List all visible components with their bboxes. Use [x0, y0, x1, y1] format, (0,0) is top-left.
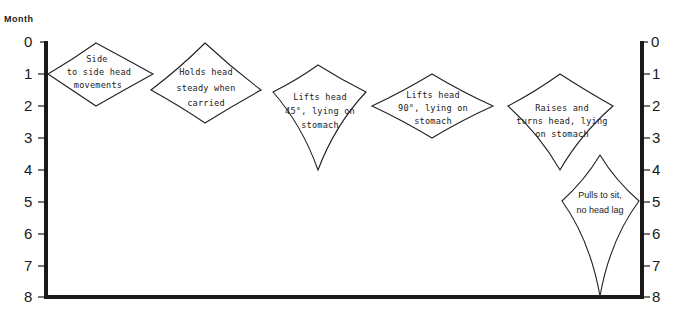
kite-shape: [562, 155, 639, 296]
right-tick-1: 1: [652, 65, 660, 82]
left-tick-5: 5: [24, 193, 32, 210]
milestone-diagram: Month 0 1 2 3 4 5 6 7 8 0 1 2 3 4: [0, 0, 684, 322]
right-tick-3: 3: [652, 129, 660, 146]
milestone-label-line: Side: [86, 54, 108, 64]
milestone-label-line: no head lag: [576, 205, 623, 215]
milestone-label-line: steady when: [176, 83, 235, 93]
milestone-label-line: Pulls to sit,: [578, 190, 622, 200]
right-tick-5: 5: [652, 193, 660, 210]
left-tick-7: 7: [24, 257, 32, 274]
left-tick-3: 3: [24, 129, 32, 146]
milestone-label-line: Lifts head: [406, 90, 460, 100]
right-tick-6: 6: [652, 225, 660, 242]
milestone-label-line: Holds head: [179, 67, 233, 77]
milestone-label-line: 45°, lying on: [285, 106, 355, 116]
right-tick-8: 8: [652, 288, 660, 305]
kite-shape: [273, 65, 366, 170]
milestone-label-line: carried: [187, 98, 225, 108]
right-tick-7: 7: [652, 257, 660, 274]
right-tick-2: 2: [652, 97, 660, 114]
right-axis: 0 1 2 3 4 5 6 7 8: [642, 33, 660, 305]
axis-title: Month: [4, 14, 34, 24]
left-axis: 0 1 2 3 4 5 6 7 8: [24, 33, 46, 305]
milestone-label-line: Raises and: [535, 103, 589, 113]
right-tick-0: 0: [651, 33, 659, 50]
milestone-label-line: to side head: [67, 67, 132, 77]
left-tick-4: 4: [24, 161, 32, 178]
milestone-label-line: stomach: [414, 116, 452, 126]
milestone-label-line: stomach: [301, 120, 339, 130]
milestone-raises-turns-head: Raises and turns head, lying on stomach: [508, 74, 613, 170]
left-tick-0: 0: [24, 33, 32, 50]
milestone-label-line: Lifts head: [293, 92, 347, 102]
milestone-label-line: on stomach: [535, 129, 589, 139]
milestone-lifts-head-45: Lifts head 45°, lying on stomach: [273, 65, 366, 170]
milestone-label-line: turns head, lying: [516, 116, 607, 126]
right-tick-4: 4: [652, 161, 660, 178]
milestone-label-line: movements: [74, 80, 122, 90]
milestone-pulls-to-sit: Pulls to sit, no head lag: [562, 155, 639, 296]
left-tick-2: 2: [24, 97, 32, 114]
left-tick-1: 1: [24, 65, 32, 82]
milestone-side-to-side: Side to side head movements: [48, 43, 153, 106]
milestone-label-line: 90°, lying on: [398, 103, 468, 113]
milestone-holds-head-steady: Holds head steady when carried: [151, 43, 261, 123]
milestone-lifts-head-90: Lifts head 90°, lying on stomach: [372, 74, 493, 138]
left-tick-8: 8: [24, 288, 32, 305]
left-tick-6: 6: [24, 225, 32, 242]
